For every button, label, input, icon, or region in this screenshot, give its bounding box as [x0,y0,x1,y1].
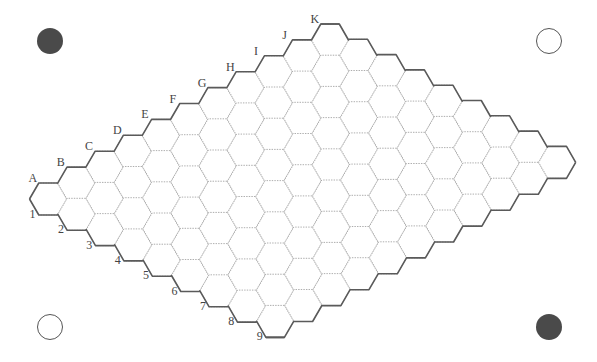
column-label-G: G [198,76,207,90]
corner-marker-top-right-hollow-icon [536,28,562,54]
hex-board: ABCDEFGHIJK 123456789 [0,0,597,362]
hex-cells [30,24,576,337]
column-label-B: B [57,155,65,169]
row-label-7: 7 [200,299,206,313]
column-label-F: F [170,92,177,106]
row-label-6: 6 [172,284,178,298]
row-label-3: 3 [86,238,92,252]
column-label-I: I [254,44,258,58]
row-label-4: 4 [115,253,121,267]
corner-marker-bottom-right-filled-icon [536,314,562,340]
column-label-D: D [113,123,122,137]
column-label-E: E [141,107,148,121]
row-label-2: 2 [58,222,64,236]
column-label-J: J [282,28,287,42]
row-label-1: 1 [30,207,36,221]
column-label-C: C [85,139,93,153]
column-label-H: H [226,60,235,74]
row-label-9: 9 [257,329,263,343]
row-label-8: 8 [228,314,234,328]
corner-marker-top-left-filled-icon [37,28,63,54]
column-label-A: A [29,171,38,185]
corner-marker-bottom-left-hollow-icon [37,314,63,340]
column-label-K: K [311,12,320,26]
row-label-5: 5 [143,268,149,282]
